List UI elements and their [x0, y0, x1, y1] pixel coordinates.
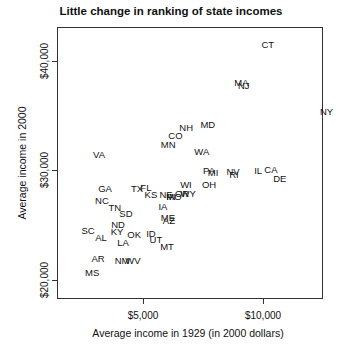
point-label-wi: WI: [180, 181, 192, 191]
point-label-mi: MI: [208, 169, 219, 179]
point-label-wv: WV: [125, 256, 140, 266]
y-tick-mark: [52, 280, 57, 281]
y-tick-mark: [52, 170, 57, 171]
point-label-ri: RI: [229, 171, 239, 181]
x-tick-label: $5,000: [128, 310, 159, 321]
point-label-wa: WA: [194, 148, 209, 158]
point-label-mn: MN: [161, 140, 176, 150]
point-label-ms: MS: [85, 268, 99, 278]
x-tick-mark: [263, 299, 264, 304]
point-label-wy: WY: [180, 189, 195, 199]
point-label-de: DE: [273, 174, 286, 184]
point-label-ok: OK: [127, 230, 141, 240]
point-label-az: AZ: [163, 217, 175, 227]
point-label-mt: MT: [160, 242, 174, 252]
point-label-nj: NJ: [238, 81, 250, 91]
x-tick-label: $10,000: [245, 310, 281, 321]
point-label-nc: NC: [95, 196, 109, 206]
y-tick-label: $40,000: [39, 42, 50, 78]
point-label-va: VA: [93, 150, 105, 160]
point-label-ny: NY: [320, 107, 333, 117]
point-label-al: AL: [95, 233, 107, 243]
chart-title: Little change in ranking of state income…: [0, 5, 342, 17]
point-label-sc: SC: [81, 227, 94, 237]
point-label-ar: AR: [92, 254, 105, 264]
point-label-sd: SD: [119, 209, 132, 219]
point-label-ct: CT: [261, 40, 274, 50]
y-axis-title: Average income in 2000: [16, 106, 28, 219]
point-label-ia: IA: [158, 202, 167, 212]
point-label-ks: KS: [145, 190, 158, 200]
point-label-oh: OH: [202, 181, 216, 191]
x-axis-title: Average income in 1929 (in 2000 dollars): [92, 327, 283, 339]
point-label-ga: GA: [98, 184, 112, 194]
point-label-la: LA: [117, 239, 129, 249]
x-tick-mark: [143, 299, 144, 304]
point-label-md: MD: [200, 120, 215, 130]
y-tick-label: $30,000: [39, 152, 50, 188]
y-tick-mark: [52, 61, 57, 62]
point-label-il: IL: [254, 166, 262, 176]
y-tick-label: $20,000: [39, 261, 50, 297]
point-label-ky: KY: [111, 228, 124, 238]
